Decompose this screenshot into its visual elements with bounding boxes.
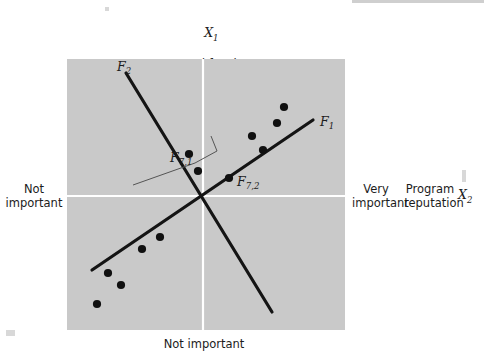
- data-point: [138, 245, 146, 253]
- x2-variable: X2: [458, 188, 480, 207]
- right-attribute-label: Programreputation: [404, 183, 456, 210]
- data-point: [225, 174, 233, 182]
- page-speck-artifact: [6, 330, 15, 336]
- figure-container: X1 Good faculty Very important Notimport…: [0, 0, 484, 361]
- page-speck-artifact: [462, 170, 466, 182]
- factor1-axis-label: F1: [319, 114, 334, 131]
- left-anchor-label: Notimportant: [4, 183, 64, 210]
- right-anchor-label: Veryimportant: [352, 183, 400, 210]
- plot-area: F1F2F7,1F7,2: [67, 59, 345, 330]
- bottom-anchor-label: Not important: [139, 338, 269, 352]
- data-point: [273, 119, 281, 127]
- data-point: [248, 132, 256, 140]
- x1-variable: X1: [204, 25, 218, 40]
- data-point: [93, 300, 101, 308]
- factor2-axis-label: F2: [116, 59, 131, 76]
- data-point: [104, 269, 112, 277]
- factor-axis-f2: [126, 73, 272, 312]
- data-point: [117, 281, 125, 289]
- loading-f72-label: F7,2: [236, 174, 259, 191]
- page-speck-artifact: [105, 7, 109, 11]
- data-point: [280, 103, 288, 111]
- data-point-group: [93, 103, 288, 308]
- data-point: [156, 233, 164, 241]
- data-point: [194, 167, 202, 175]
- scatter-plot-svg: F1F2F7,1F7,2: [67, 59, 345, 330]
- page-edge-artifact: [352, 0, 484, 3]
- data-point: [259, 146, 267, 154]
- plot-text-group: F1F2F7,1F7,2: [116, 59, 334, 191]
